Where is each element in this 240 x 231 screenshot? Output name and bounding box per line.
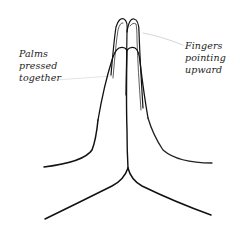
label-fingers-pointing-upward: Fingers pointing upward xyxy=(185,40,226,76)
label-left-line-1: Palms xyxy=(19,48,61,60)
pointer-line-right xyxy=(143,33,183,45)
label-right-line-3: upward xyxy=(185,64,226,76)
label-left-line-2: pressed xyxy=(19,60,61,72)
label-right-line-1: Fingers xyxy=(185,40,226,52)
label-left-line-3: together xyxy=(19,72,61,84)
right-hand-contour xyxy=(148,118,212,163)
right-wrist-line xyxy=(128,168,211,215)
left-hand-contour xyxy=(44,120,98,167)
finger-outline-front-left xyxy=(98,47,127,120)
pointer-line-left xyxy=(55,76,112,80)
praying-hands-drawing xyxy=(0,0,240,231)
label-palms-pressed-together: Palms pressed together xyxy=(19,48,61,84)
left-wrist-line xyxy=(45,168,128,219)
label-right-line-2: pointing xyxy=(185,52,226,64)
finger-outline-back-left-inner xyxy=(113,23,123,78)
center-seam xyxy=(127,50,129,168)
illustration-canvas xyxy=(0,0,240,231)
